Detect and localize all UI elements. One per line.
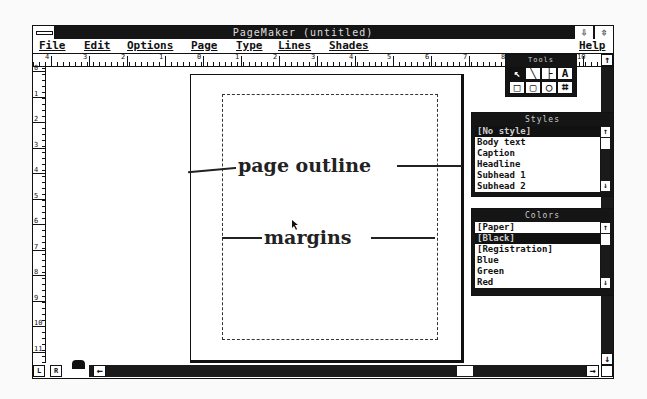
ruler-label: 6 [425, 54, 429, 61]
colors-scroll-thumb[interactable] [601, 234, 610, 245]
ruler-tick [165, 56, 166, 66]
ruler-label: 3 [83, 54, 87, 61]
ruler-label: 8 [34, 269, 38, 276]
ruler-tick [355, 56, 356, 66]
perpendicular-line-tool-icon[interactable]: ├ [541, 67, 557, 80]
ruler-label: 1 [235, 54, 239, 61]
pagemaker-window: PageMaker (untitled) ⇩ ⇳ FileEditOptions… [32, 25, 614, 379]
window-title: PageMaker (untitled) [33, 26, 573, 39]
menu-page[interactable]: Page [191, 39, 218, 53]
ruler-label: 1 [159, 54, 163, 61]
page-icon[interactable] [72, 360, 85, 369]
scroll-down-button[interactable]: ↓ [601, 353, 613, 365]
menu-bar: FileEditOptionsPageTypeLinesShadesHelp [33, 39, 613, 54]
minimize-button[interactable]: ⇩ [574, 26, 593, 39]
styles-item[interactable]: Headline [475, 159, 600, 170]
toolbox-palette: Tools ↖╲├A□▢○⌗ [505, 54, 577, 97]
annotation-leader-line [222, 237, 262, 239]
menu-label: Page [191, 39, 218, 52]
size-box[interactable] [601, 365, 613, 377]
oval-tool-icon[interactable]: ○ [541, 81, 557, 94]
annotation-leader-line [397, 165, 462, 167]
menu-label: Lines [278, 39, 311, 52]
ruler-tick [51, 56, 52, 66]
horizontal-scroll-thumb[interactable] [457, 366, 473, 376]
ruler-label: 7 [463, 54, 467, 61]
toolbox-title[interactable]: Tools [506, 55, 576, 65]
styles-item[interactable]: Caption [475, 148, 600, 159]
ruler-tick [279, 56, 280, 66]
ruler-tick [393, 56, 394, 66]
diagonal-line-tool-icon[interactable]: ╲ [525, 67, 541, 80]
ruler-tick [431, 56, 432, 66]
menu-options[interactable]: Options [127, 39, 173, 53]
colors-list: [Paper][Black][Registration]BlueGreenRed [475, 222, 600, 288]
menu-file[interactable]: File [39, 39, 66, 53]
colors-item[interactable]: [Black] [475, 233, 600, 244]
menu-label: Options [127, 39, 173, 52]
annotation-leader-line [371, 237, 435, 239]
right-page-button[interactable]: R [50, 365, 62, 377]
menu-type[interactable]: Type [236, 39, 263, 53]
menu-shades[interactable]: Shades [329, 39, 369, 53]
ruler-label: 0 [197, 54, 201, 61]
colors-scroll-up[interactable]: ↑ [601, 223, 610, 233]
styles-scroll-up[interactable]: ↑ [601, 127, 610, 137]
square-corner-rect-tool-icon[interactable]: □ [509, 81, 525, 94]
ruler-label: 7 [34, 244, 38, 251]
styles-item[interactable]: Subhead 1 [475, 170, 600, 181]
ruler-label: 2 [121, 54, 125, 61]
menu-label: Type [236, 39, 263, 52]
colors-item[interactable]: [Paper] [475, 222, 600, 233]
ruler-label: 3 [34, 142, 38, 149]
pointer-tool-icon[interactable]: ↖ [509, 67, 525, 80]
left-page-button[interactable]: L [33, 365, 45, 377]
ruler-label: 6 [34, 218, 38, 225]
styles-palette-title[interactable]: Styles [472, 113, 613, 126]
styles-scroll-thumb[interactable] [601, 138, 610, 149]
crop-tool-icon[interactable]: ⌗ [557, 81, 573, 94]
menu-label: Edit [84, 39, 111, 52]
text-tool-icon[interactable]: A [557, 67, 573, 80]
ruler-tick [127, 56, 128, 66]
styles-list: [No style]Body textCaptionHeadlineSubhea… [475, 126, 600, 192]
vertical-ruler[interactable]: 01234567891011 [33, 67, 46, 363]
title-bar[interactable]: PageMaker (untitled) ⇩ ⇳ [33, 26, 613, 39]
maximize-button[interactable]: ⇳ [594, 26, 613, 39]
styles-palette: Styles [No style]Body textCaptionHeadlin… [471, 112, 614, 197]
ruler-label: 4 [349, 54, 353, 61]
page-outline-label: page outline [236, 154, 373, 176]
menu-label: Help [579, 39, 606, 52]
margins-label: margins [262, 226, 353, 248]
menu-lines[interactable]: Lines [278, 39, 311, 53]
styles-item[interactable]: [No style] [475, 126, 600, 137]
styles-item[interactable]: Subhead 2 [475, 181, 600, 192]
ruler-tick [469, 56, 470, 66]
colors-palette-title[interactable]: Colors [472, 209, 613, 222]
colors-item[interactable]: Blue [475, 255, 600, 266]
colors-scroll-down[interactable]: ↓ [601, 278, 610, 288]
ruler-tick [203, 56, 204, 66]
menu-edit[interactable]: Edit [84, 39, 111, 53]
ruler-tick [241, 56, 242, 66]
colors-item[interactable]: Red [475, 277, 600, 288]
colors-item[interactable]: [Registration] [475, 244, 600, 255]
colors-palette: Colors [Paper][Black][Registration]BlueG… [471, 208, 614, 296]
ruler-label: 10 [34, 320, 42, 327]
styles-scroll-down[interactable]: ↓ [601, 181, 610, 191]
menu-label: Shades [329, 39, 369, 52]
rounded-rect-tool-icon[interactable]: ▢ [525, 81, 541, 94]
horizontal-scrollbar[interactable] [89, 365, 599, 377]
menu-label: File [39, 39, 66, 52]
scroll-up-button[interactable]: ↑ [601, 54, 613, 66]
page-outline[interactable] [190, 74, 464, 363]
colors-item[interactable]: Green [475, 266, 600, 277]
mouse-pointer-icon [292, 215, 300, 234]
ruler-label: 3 [311, 54, 315, 61]
ruler-label: 10 [577, 54, 585, 61]
styles-item[interactable]: Body text [475, 137, 600, 148]
menu-help[interactable]: Help [579, 39, 606, 53]
scroll-left-button[interactable]: ← [93, 365, 106, 377]
ruler-label: 2 [273, 54, 277, 61]
scroll-right-button[interactable]: → [586, 365, 599, 377]
